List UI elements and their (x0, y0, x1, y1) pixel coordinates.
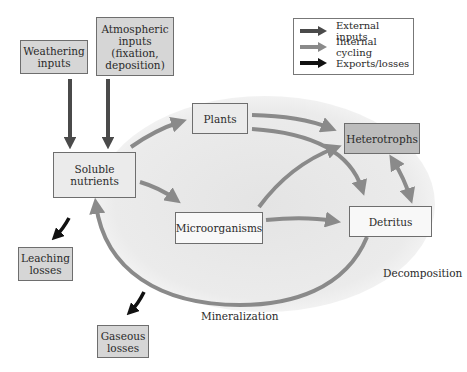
node-heterotrophs: Heterotrophs (344, 123, 420, 154)
node-weathering-inputs: Weatheringinputs (20, 40, 88, 74)
arrow-gaseous-loss (131, 292, 144, 311)
label-decomposition: Decomposition (383, 267, 462, 279)
legend: External inputs Internal cycling Exports… (293, 18, 414, 75)
node-soluble-nutrients: Solublenutrients (53, 152, 136, 198)
node-plants: Plants (192, 103, 248, 134)
node-leaching-losses: Leachinglosses (18, 247, 73, 281)
label-mineralization: Mineralization (201, 310, 279, 322)
arrow-leaching-loss (56, 218, 69, 236)
node-atmospheric-inputs: Atmosphericinputs(fixation,deposition) (96, 17, 174, 76)
node-gaseous-losses: Gaseouslosses (97, 325, 149, 358)
node-microorganisms: Microorganisms (175, 212, 263, 244)
legend-item-internal-cycling: Internal cycling (300, 39, 409, 55)
nutrient-cycle-diagram: Weatheringinputs Atmosphericinputs(fixat… (0, 0, 467, 372)
arrow-loss-icon (300, 58, 328, 68)
arrow-internal-icon (300, 42, 328, 52)
legend-item-exports-losses: Exports/losses (300, 55, 409, 71)
node-detritus: Detritus (349, 206, 432, 237)
arrow-external-icon (300, 26, 328, 36)
